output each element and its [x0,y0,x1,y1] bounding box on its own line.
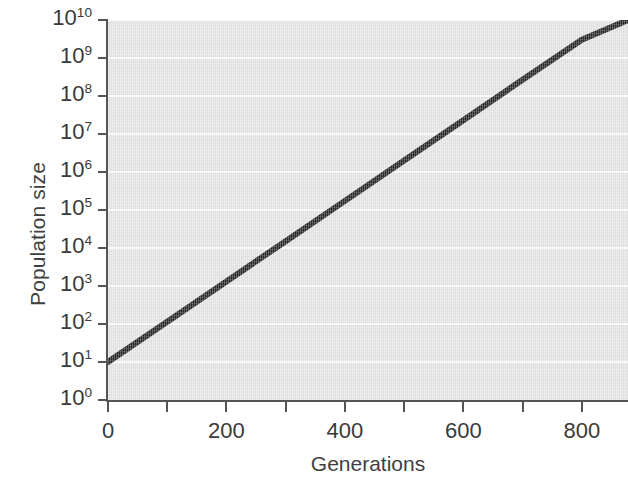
x-tick-label: 400 [290,418,400,444]
y-tick-mark [98,399,107,401]
y-tick-label: 108 [26,83,92,105]
y-tick-mark [98,19,107,21]
x-tick-label: 800 [527,418,628,444]
x-tick-mark [166,402,168,412]
x-tick-mark [581,402,583,412]
x-tick-label: 200 [171,418,281,444]
x-tick-mark [285,402,287,412]
x-tick-mark [403,402,405,412]
x-tick-label: 0 [53,418,163,444]
x-tick-mark [522,402,524,412]
y-tick-label: 107 [26,121,92,143]
y-tick-label: 101 [26,349,92,371]
y-tick-label: 109 [26,45,92,67]
plot-area [108,20,628,400]
y-tick-mark [98,285,107,287]
x-tick-mark [225,402,227,412]
y-tick-mark [98,361,107,363]
y-axis-tick-labels: 1010109108107106105104103102101100 [26,0,92,484]
population-growth-chart: Population size 101010910810710610510410… [0,0,628,484]
y-tick-label: 106 [26,159,92,181]
x-tick-mark [107,402,109,412]
y-tick-label: 100 [26,387,92,409]
x-axis-spine [106,400,628,402]
data-line-series [108,20,628,400]
y-tick-label: 102 [26,311,92,333]
y-tick-label: 105 [26,197,92,219]
x-tick-mark [344,402,346,412]
exponential-growth-line [108,20,628,362]
y-tick-mark [98,247,107,249]
y-tick-mark [98,95,107,97]
y-tick-mark [98,57,107,59]
x-tick-label: 600 [408,418,518,444]
y-tick-label: 103 [26,273,92,295]
x-axis-title: Generations [108,452,628,476]
x-tick-mark [462,402,464,412]
y-tick-mark [98,209,107,211]
y-tick-label: 104 [26,235,92,257]
y-tick-mark [98,133,107,135]
y-tick-label: 1010 [26,7,92,29]
y-tick-mark [98,171,107,173]
y-tick-mark [98,323,107,325]
